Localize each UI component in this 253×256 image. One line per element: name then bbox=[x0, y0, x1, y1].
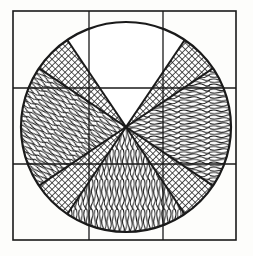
circular-sector-diagram bbox=[0, 0, 253, 256]
figure-root bbox=[0, 0, 253, 256]
